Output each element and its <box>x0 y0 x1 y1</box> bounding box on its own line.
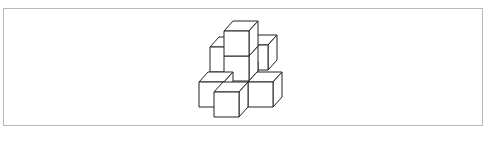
cube-right-bottom <box>248 72 282 107</box>
cube-front-face <box>214 92 239 117</box>
cube-front-face <box>224 31 249 56</box>
cube-center-top <box>224 21 258 56</box>
cube-front-face <box>248 82 273 107</box>
cube-front-center-bottom <box>214 82 248 117</box>
